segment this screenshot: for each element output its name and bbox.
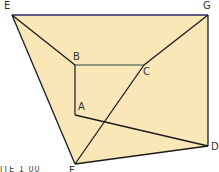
point-label-E: E: [4, 1, 10, 11]
point-label-F: F: [69, 166, 75, 172]
geometry-diagram: [0, 0, 219, 172]
point-label-G: G: [203, 1, 211, 11]
cut-off-caption: ITE 1 00: [0, 166, 41, 172]
point-label-A: A: [78, 102, 85, 112]
point-label-D: D: [211, 142, 219, 152]
point-label-C: C: [143, 67, 150, 77]
point-label-B: B: [73, 52, 80, 62]
